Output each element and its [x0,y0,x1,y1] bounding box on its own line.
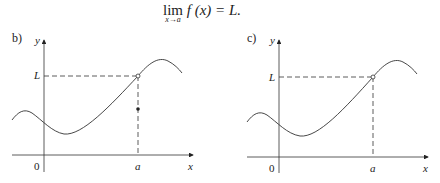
panel-c: c) y x 0 L a [247,31,428,174]
a-label: a [135,160,141,172]
origin-label: 0 [34,160,40,172]
y-axis-label: y [34,34,40,46]
graphs: b) y x 0 L a c) y x 0 L a [0,0,440,183]
L-label: L [268,71,275,83]
panel-c-label: c) [247,31,256,45]
x-axis-label: x [422,162,428,174]
L-label: L [33,69,40,81]
a-label: a [370,162,376,174]
panel-b-label: b) [12,31,22,45]
open-circle [371,75,375,79]
x-axis-label: x [187,160,193,172]
panel-b: b) y x 0 L a [12,31,193,172]
open-circle [136,74,140,78]
y-axis-label: y [269,34,275,46]
filled-dot [136,107,140,111]
origin-label: 0 [269,162,275,174]
